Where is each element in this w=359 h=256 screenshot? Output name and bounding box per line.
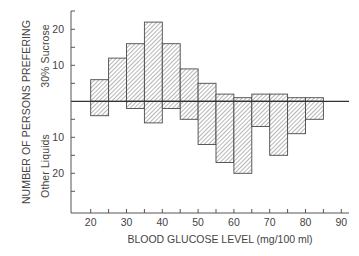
- y-tick-label: 10: [52, 131, 64, 143]
- y-axis-title: NUMBER OF PERSONS PREFERING: [20, 17, 32, 207]
- y-tick-label: 20: [52, 167, 64, 179]
- bar-other-liquids: [144, 101, 162, 123]
- x-tick-label: 80: [300, 216, 312, 228]
- bar-other-liquids: [234, 101, 252, 173]
- bar-sucrose: [91, 80, 109, 102]
- y-axis-label-lower: Other Liquids: [39, 126, 51, 206]
- x-axis-title: BLOOD GLUCOSE LEVEL (mg/100 ml): [90, 233, 350, 245]
- bar-sucrose: [109, 58, 127, 101]
- bar-other-liquids: [288, 101, 306, 133]
- x-tick-label: 30: [121, 216, 133, 228]
- histogram-chart: 102010202030405060708090: [0, 0, 359, 256]
- bar-other-liquids: [270, 101, 288, 155]
- bar-other-liquids: [252, 101, 270, 126]
- x-tick-label: 50: [192, 216, 204, 228]
- x-tick-label: 60: [228, 216, 240, 228]
- y-tick-label: 20: [52, 23, 64, 35]
- bars-sucrose: [91, 22, 324, 101]
- bar-other-liquids: [216, 101, 234, 162]
- bar-other-liquids: [127, 101, 145, 108]
- bar-sucrose: [162, 44, 180, 102]
- x-tick-label: 40: [156, 216, 168, 228]
- y-tick-label: 10: [52, 59, 64, 71]
- bar-other-liquids: [91, 101, 109, 115]
- bar-sucrose: [127, 44, 145, 102]
- x-tick-label: 20: [85, 216, 97, 228]
- bar-sucrose: [270, 94, 288, 101]
- bars-other-liquids: [91, 101, 324, 173]
- bar-other-liquids: [198, 101, 216, 144]
- bar-sucrose: [198, 83, 216, 101]
- bar-sucrose: [144, 22, 162, 101]
- bar-sucrose: [252, 94, 270, 101]
- bar-other-liquids: [180, 101, 198, 119]
- bar-other-liquids: [306, 101, 324, 119]
- bar-sucrose: [216, 94, 234, 101]
- bar-sucrose: [180, 69, 198, 101]
- y-axis-label-upper: 30% Sucrose: [39, 16, 51, 96]
- x-tick-label: 70: [264, 216, 276, 228]
- bar-other-liquids: [162, 101, 180, 108]
- x-tick-label: 90: [335, 216, 347, 228]
